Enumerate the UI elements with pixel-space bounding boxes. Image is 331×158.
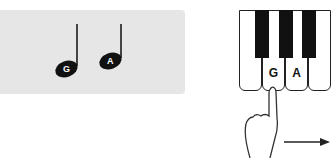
pointing-hand-icon — [0, 0, 330, 158]
